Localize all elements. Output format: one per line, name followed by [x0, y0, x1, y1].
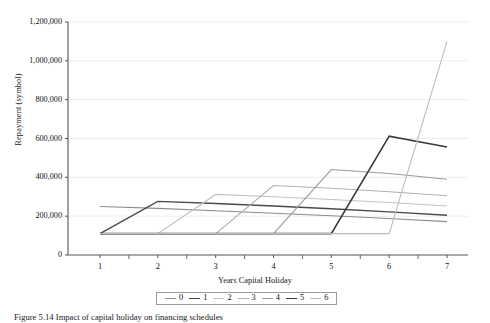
- x-tick-label: 7: [435, 262, 459, 271]
- legend-label-2: 2: [227, 294, 231, 302]
- legend-label-5: 5: [300, 294, 304, 302]
- legend-item-1[interactable]: 1: [186, 294, 210, 302]
- legend-swatch-1: [189, 298, 200, 299]
- x-tick-label: 5: [319, 262, 343, 271]
- x-tick-label: 2: [146, 262, 170, 271]
- figure-container: Repayment (symbol) 0200,000400,000600,00…: [0, 0, 490, 323]
- series-line-4: [100, 170, 447, 234]
- legend-swatch-6: [310, 298, 321, 299]
- legend-swatch-2: [213, 298, 224, 299]
- legend-item-4[interactable]: 4: [259, 294, 283, 302]
- legend-label-3: 3: [252, 294, 256, 302]
- legend-swatch-3: [238, 298, 249, 299]
- legend-label-0: 0: [179, 294, 183, 302]
- x-tick-label: 6: [377, 262, 401, 271]
- legend-item-6[interactable]: 6: [307, 294, 331, 302]
- chart-legend[interactable]: 0123456: [156, 292, 337, 305]
- series-line-3: [100, 185, 447, 233]
- legend-item-5[interactable]: 5: [283, 294, 307, 302]
- x-tick-label: 3: [204, 262, 228, 271]
- legend-swatch-5: [286, 298, 297, 299]
- legend-label-6: 6: [324, 294, 328, 302]
- legend-swatch-0: [165, 298, 176, 299]
- x-tick-label: 1: [88, 262, 112, 271]
- legend-label-4: 4: [276, 294, 280, 302]
- legend-label-1: 1: [203, 294, 207, 302]
- series-line-1: [100, 201, 447, 233]
- x-axis-title: Years Capital Holiday: [175, 276, 335, 285]
- legend-item-0[interactable]: 0: [162, 294, 186, 302]
- legend-swatch-4: [262, 298, 273, 299]
- chart-plot-area: [0, 0, 490, 323]
- legend-item-3[interactable]: 3: [235, 294, 259, 302]
- legend-item-2[interactable]: 2: [210, 294, 234, 302]
- x-tick-label: 4: [262, 262, 286, 271]
- figure-caption: Figure 5.14 Impact of capital holiday on…: [14, 312, 484, 323]
